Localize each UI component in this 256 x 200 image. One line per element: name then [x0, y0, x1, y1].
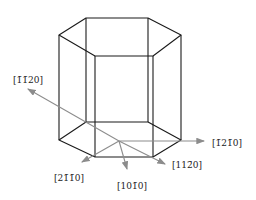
label-10m10: [101̄0]	[117, 181, 147, 191]
label-2m1m10: [21̄1̄0]	[54, 173, 84, 183]
hexagonal-prism-diagram: [1̄1̄20] [1̄21̄0] [112̄0] [21̄1̄0] [101̄…	[0, 0, 256, 200]
label-112m0: [112̄0]	[172, 160, 202, 170]
axis-112m0	[119, 141, 165, 164]
axis-10m10	[119, 141, 127, 169]
vertical-edges	[59, 18, 181, 157]
label-m1m120: [1̄1̄20]	[13, 75, 43, 85]
bottom-face	[59, 122, 181, 157]
top-face	[59, 18, 181, 56]
label-m12m10: [1̄21̄0]	[212, 138, 242, 148]
axis-m1m120	[28, 89, 119, 141]
axis-2m1m10	[82, 141, 119, 162]
